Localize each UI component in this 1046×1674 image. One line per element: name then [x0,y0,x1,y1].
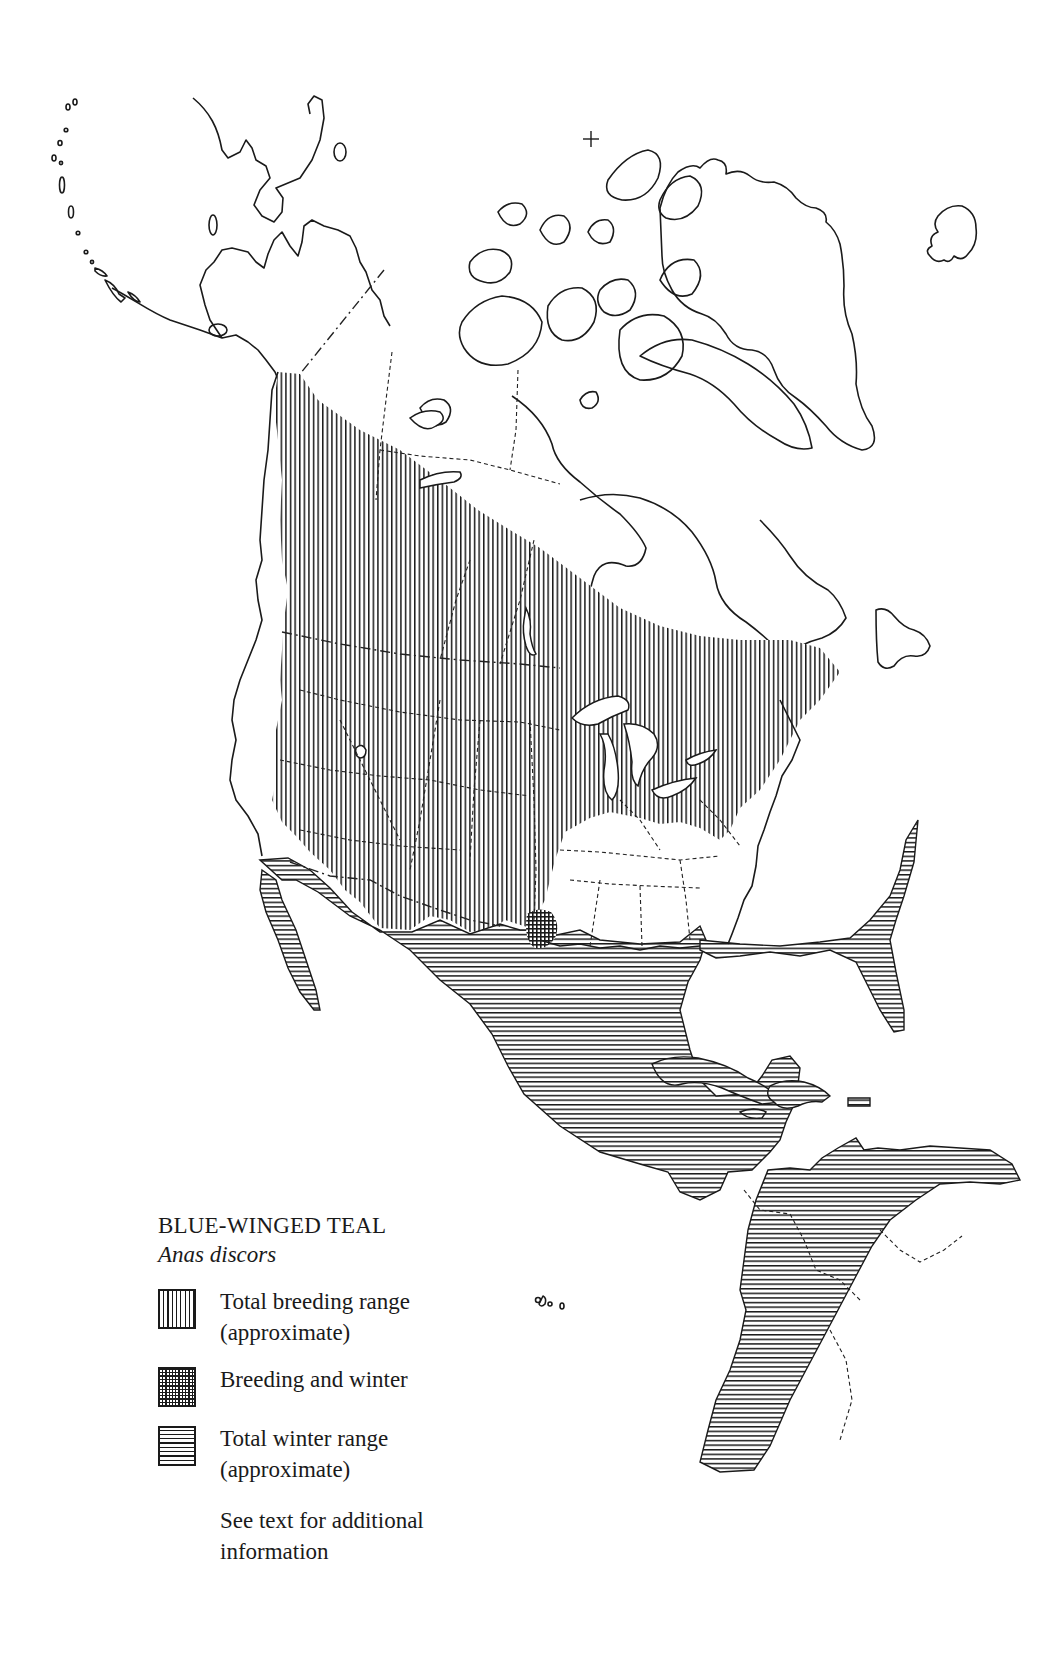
horizontal-hatch-swatch-icon [158,1426,196,1466]
pacific-coastline [230,372,278,856]
iceland [927,206,976,262]
arctic-archipelago [420,150,702,425]
st-lawrence-island [334,143,346,161]
newfoundland [876,609,930,668]
aleutian-islands [52,99,140,302]
alaska-canada-border [300,270,384,374]
vertical-hatch-swatch-icon [158,1289,196,1329]
range-map [0,0,1046,1674]
legend-title: BLUE-WINGED TEAL [158,1212,518,1240]
north-pole-marker-icon [583,131,599,147]
greenland [660,159,874,450]
winter-range-southeast-us [700,820,918,1032]
galapagos-islands [536,1296,565,1309]
kodiak-island [209,324,227,336]
winter-range-south-america [700,1138,1020,1472]
great-salt-lake [356,745,367,758]
nunivak-island [209,215,217,235]
winter-range-baja [260,870,320,1010]
legend-label: Total winter range [220,1423,388,1454]
alaska-coastline [112,220,390,384]
legend-label: Total breeding range [220,1286,410,1317]
legend-label-qualifier: (approximate) [220,1317,410,1348]
map-legend: BLUE-WINGED TEAL Anas discors Total bree… [158,1212,518,1567]
legend-label-qualifier: (approximate) [220,1454,388,1485]
legend-item-winter: Total winter range (approximate) [158,1423,518,1485]
crosshatch-swatch-icon [158,1367,196,1407]
siberia-coastline [193,96,324,222]
baffin-island [640,339,812,449]
legend-note-line: See text for additional [220,1505,518,1536]
great-bear-lake [410,411,443,429]
legend-note: See text for additional information [220,1505,518,1567]
legend-species-latin: Anas discors [158,1240,518,1270]
legend-item-breeding-and-winter: Breeding and winter [158,1364,518,1407]
legend-item-breeding: Total breeding range (approximate) [158,1286,518,1348]
legend-note-line: information [220,1536,518,1567]
legend-label: Breeding and winter [220,1364,408,1395]
